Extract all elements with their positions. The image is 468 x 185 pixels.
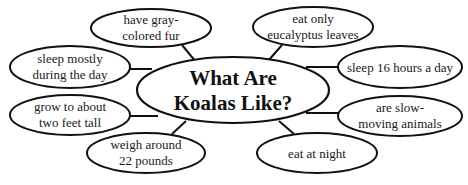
node-sleep-16-line1: sleep 16 hours a day — [347, 60, 454, 75]
node-eucalyptus-line1: eat only — [292, 11, 334, 26]
node-slow-moving-line2: moving animals — [358, 116, 441, 131]
node-eucalyptus-line2: eucalyptus leaves — [267, 27, 358, 42]
center-title-line1: What Are — [189, 66, 277, 90]
node-night: eat at night — [257, 133, 377, 173]
node-weigh-line2: 22 pounds — [119, 153, 173, 168]
connector-weigh — [172, 121, 186, 134]
node-two-feet-line2: two feet tall — [39, 115, 101, 130]
node-weigh-line1: weigh around — [110, 137, 182, 152]
connector-night — [279, 121, 294, 134]
node-sleep-day-line2: during the day — [32, 67, 108, 82]
node-sleep-day: sleep mostly during the day — [10, 46, 130, 88]
node-two-feet-line1: grow to about — [34, 99, 107, 114]
node-gray-fur: have gray- colored fur — [91, 9, 211, 47]
node-two-feet: grow to about two feet tall — [10, 95, 130, 135]
node-sleep-16: sleep 16 hours a day — [338, 46, 462, 88]
node-slow-moving: are slow- moving animals — [338, 96, 462, 136]
node-gray-fur-line1: have gray- — [123, 12, 178, 27]
node-night-line1: eat at night — [288, 146, 346, 161]
node-gray-fur-line2: colored fur — [122, 28, 180, 43]
node-slow-moving-line1: are slow- — [376, 100, 424, 115]
center-title-line2: Koalas Like? — [174, 91, 292, 115]
node-sleep-day-line1: sleep mostly — [37, 51, 103, 66]
center-node: What Are Koalas Like? — [137, 57, 329, 123]
node-eucalyptus: eat only eucalyptus leaves — [253, 7, 373, 47]
concept-web-diagram: have gray- colored fur eat only eucalypt… — [0, 0, 468, 185]
node-weigh: weigh around 22 pounds — [87, 133, 205, 173]
